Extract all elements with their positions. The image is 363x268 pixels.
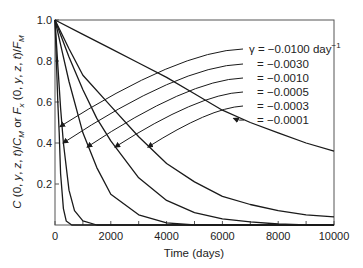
leader-arrow-4 <box>148 106 243 147</box>
x-tick-label: 10000 <box>319 230 350 242</box>
legend-labels: γ = −0.0100 day−1= −0.0030= −0.0010= −0.… <box>249 41 341 126</box>
legend-label-1: = −0.0030 <box>257 58 309 70</box>
y-tick-label: 0.6 <box>37 96 52 108</box>
decay-chart: 02000400060008000100000.20.40.60.81.0 γ … <box>0 0 363 268</box>
legend-label-2: = −0.0010 <box>257 72 309 84</box>
y-tick-label: 0.2 <box>37 178 52 190</box>
legend-label-0: γ = −0.0100 day−1 <box>249 41 341 55</box>
leader-arrow-0 <box>60 49 243 127</box>
legend-label-3: = −0.0005 <box>257 86 309 98</box>
x-tick-label: 6000 <box>210 230 234 242</box>
x-tick-label: 8000 <box>266 230 290 242</box>
legend-label-4: = −0.0003 <box>257 100 309 112</box>
x-tick-label: 0 <box>52 230 58 242</box>
x-tick-label: 4000 <box>154 230 178 242</box>
legend-label-5: = −0.0001 <box>257 114 309 126</box>
x-axis-title: Time (days) <box>164 247 224 259</box>
y-tick-label: 0.4 <box>37 137 52 149</box>
y-axis-title: C (0, y, z, t)/CM or Fx (0, y, z, t)/FM <box>11 35 26 209</box>
x-tick-label: 2000 <box>99 230 123 242</box>
y-tick-label: 1.0 <box>37 14 52 26</box>
y-tick-label: 0.8 <box>37 55 52 67</box>
